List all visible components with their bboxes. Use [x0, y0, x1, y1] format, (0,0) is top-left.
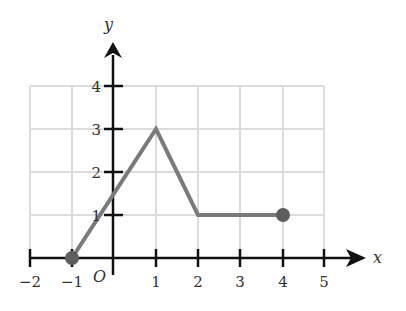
svg-text:1: 1: [91, 207, 101, 225]
svg-text:−2: −2: [19, 273, 41, 291]
svg-text:3: 3: [91, 121, 101, 139]
svg-text:4: 4: [278, 273, 288, 291]
function-graph: [72, 129, 283, 258]
chart: y x O −2 −1 1 2 3 4 5 1 2 3 4: [0, 0, 406, 311]
y-tick-labels: 1 2 3 4: [91, 78, 101, 225]
svg-text:2: 2: [91, 164, 101, 182]
endpoint-dot-left: [65, 251, 79, 265]
origin-label: O: [93, 267, 106, 286]
svg-text:−1: −1: [61, 273, 83, 291]
endpoint-dot-right: [276, 208, 290, 222]
svg-text:3: 3: [235, 273, 245, 291]
x-axis-label: x: [373, 248, 382, 267]
svg-text:2: 2: [193, 273, 203, 291]
svg-text:4: 4: [91, 78, 101, 96]
svg-text:1: 1: [151, 273, 161, 291]
y-axis-label: y: [103, 15, 114, 34]
svg-text:5: 5: [319, 273, 329, 291]
axes: [30, 55, 355, 275]
x-tick-labels: −2 −1 1 2 3 4 5: [19, 273, 329, 291]
